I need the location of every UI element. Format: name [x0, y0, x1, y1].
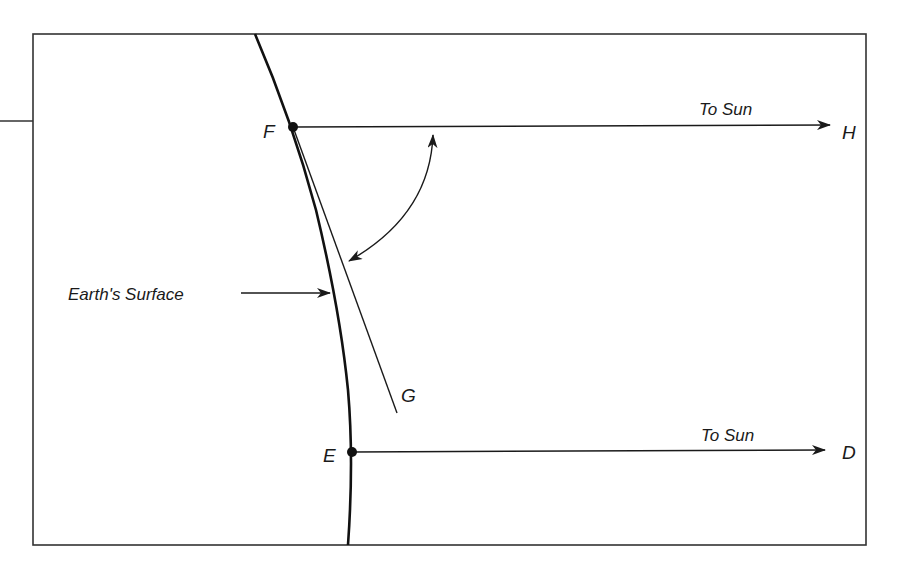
- label-E: E: [323, 445, 336, 466]
- label-H: H: [842, 122, 856, 143]
- ray-FH: [293, 125, 830, 127]
- angle-arrow: [349, 135, 433, 261]
- sun-angle-diagram: F H G E D To Sun To Sun Earth's Surface: [0, 0, 916, 573]
- label-earth-surface: Earth's Surface: [68, 285, 184, 304]
- point-E-dot: [347, 447, 357, 457]
- label-G: G: [401, 385, 416, 406]
- label-F: F: [263, 121, 276, 142]
- label-D: D: [842, 442, 856, 463]
- earth-surface-curve: [255, 34, 351, 545]
- point-F-dot: [288, 122, 298, 132]
- ray-ED: [352, 450, 825, 452]
- label-to-sun-bottom: To Sun: [701, 426, 754, 445]
- label-to-sun-top: To Sun: [699, 100, 752, 119]
